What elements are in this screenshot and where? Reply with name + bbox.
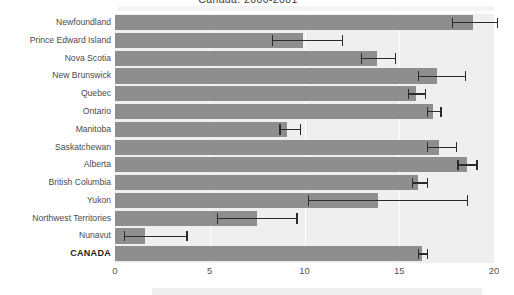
error-bar-line xyxy=(217,218,297,219)
x-tick-label-20: 20 xyxy=(489,265,500,276)
error-bar-cap-low xyxy=(418,249,419,259)
bar xyxy=(115,246,422,261)
chart-row xyxy=(115,192,494,210)
category-label-nunavut: Nunavut xyxy=(0,227,111,245)
gridline-20 xyxy=(494,14,495,263)
error-bar-line xyxy=(413,182,428,183)
category-label-manitoba: Manitoba xyxy=(0,121,111,139)
bar xyxy=(115,86,416,101)
category-label-yukon: Yukon xyxy=(0,192,111,210)
error-bar-cap-high xyxy=(497,18,498,28)
error-bar-line xyxy=(272,40,342,41)
bar xyxy=(115,140,439,155)
category-label-newfoundland: Newfoundland xyxy=(0,14,111,32)
bar xyxy=(115,51,377,66)
chart-row xyxy=(115,85,494,103)
chart-row xyxy=(115,156,494,174)
error-bar-line xyxy=(280,129,301,130)
bar xyxy=(115,175,418,190)
error-bar-cap-low xyxy=(412,178,413,188)
chart-row xyxy=(115,14,494,32)
chart-row xyxy=(115,32,494,50)
bar xyxy=(115,157,467,172)
category-label-british-columbia: British Columbia xyxy=(0,174,111,192)
error-bar-cap-high xyxy=(186,231,187,241)
chart-row xyxy=(115,50,494,68)
bar xyxy=(115,15,473,30)
chart-row xyxy=(115,103,494,121)
category-label-alberta: Alberta xyxy=(0,156,111,174)
error-bar-cap-high xyxy=(476,160,477,170)
category-label-canada: CANADA xyxy=(0,245,111,263)
bar xyxy=(115,68,437,83)
error-bar-line xyxy=(452,22,497,23)
top-decorative-band xyxy=(118,6,494,11)
chart-row xyxy=(115,67,494,85)
error-bar-cap-low xyxy=(427,142,428,152)
error-bar-cap-low xyxy=(427,107,428,117)
x-tick-label-15: 15 xyxy=(394,265,405,276)
category-axis-labels: NewfoundlandPrince Edward IslandNova Sco… xyxy=(0,14,111,263)
error-bar-line xyxy=(428,111,441,112)
category-label-saskatchewan: Saskatchewan xyxy=(0,139,111,157)
bar xyxy=(115,122,287,137)
error-bar-cap-high xyxy=(300,124,301,134)
error-bar-line xyxy=(458,164,477,165)
error-bar-cap-low xyxy=(217,213,218,223)
error-bar-line xyxy=(418,76,465,77)
x-tick-label-5: 5 xyxy=(207,265,212,276)
error-bar-cap-low xyxy=(308,195,309,205)
category-label-nova-scotia: Nova Scotia xyxy=(0,50,111,68)
error-bar-cap-high xyxy=(296,213,297,223)
category-label-prince-edward-island: Prince Edward Island xyxy=(0,32,111,50)
chart-row xyxy=(115,227,494,245)
error-bar-cap-low xyxy=(457,160,458,170)
x-tick-label-0: 0 xyxy=(112,265,117,276)
error-bar-line xyxy=(428,147,456,148)
bottom-decorative-band xyxy=(152,288,482,295)
category-label-northwest-territories: Northwest Territories xyxy=(0,210,111,228)
category-label-quebec: Quebec xyxy=(0,85,111,103)
x-axis: 05101520 xyxy=(115,265,494,283)
plot-area xyxy=(115,14,494,263)
category-label-new-brunswick: New Brunswick xyxy=(0,67,111,85)
x-tick-label-10: 10 xyxy=(299,265,310,276)
bar xyxy=(115,104,433,119)
chart-row xyxy=(115,210,494,228)
error-bar-cap-low xyxy=(418,71,419,81)
chart-row xyxy=(115,245,494,263)
error-bar-cap-high xyxy=(427,249,428,259)
chart-row xyxy=(115,139,494,157)
error-bar-cap-high xyxy=(395,53,396,63)
error-bar-line xyxy=(361,58,395,59)
error-bar-cap-high xyxy=(342,35,343,45)
error-bar-line xyxy=(308,200,467,201)
error-bar-cap-low xyxy=(452,18,453,28)
error-bar-cap-low xyxy=(272,35,273,45)
error-bar-cap-low xyxy=(124,231,125,241)
error-bar-cap-high xyxy=(427,178,428,188)
error-bar-cap-high xyxy=(456,142,457,152)
error-bar-cap-high xyxy=(440,107,441,117)
chart-title: Canada, 2000-2001 xyxy=(118,0,378,3)
error-bar-cap-high xyxy=(467,195,468,205)
bar-chart: Canada, 2000-2001 NewfoundlandPrince Edw… xyxy=(0,0,514,295)
error-bar-cap-high xyxy=(465,71,466,81)
chart-row xyxy=(115,121,494,139)
error-bar-cap-high xyxy=(425,89,426,99)
category-label-ontario: Ontario xyxy=(0,103,111,121)
error-bar-line xyxy=(409,93,426,94)
error-bar-line xyxy=(124,236,187,237)
chart-row xyxy=(115,174,494,192)
error-bar-cap-low xyxy=(361,53,362,63)
error-bar-cap-low xyxy=(408,89,409,99)
error-bar-cap-low xyxy=(279,124,280,134)
